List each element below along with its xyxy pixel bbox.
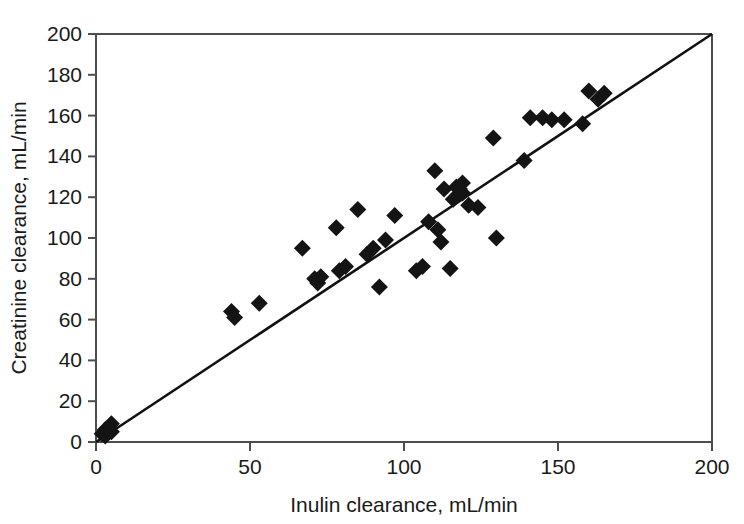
scatter-point — [485, 130, 502, 147]
x-axis-tick-labels: 050100150200 — [90, 455, 729, 478]
x-tick-label: 50 — [238, 455, 261, 478]
x-tick-label: 200 — [694, 455, 729, 478]
scatter-point — [426, 162, 443, 179]
x-tick-label: 100 — [386, 455, 421, 478]
scatter-point — [251, 295, 268, 312]
y-tick-label: 200 — [47, 22, 82, 45]
scatter-point — [488, 230, 505, 247]
y-tick-label: 140 — [47, 144, 82, 167]
y-tick-label: 60 — [59, 308, 82, 331]
y-axis-ticks — [88, 34, 96, 442]
scatter-point — [349, 201, 366, 218]
scatter-point — [294, 240, 311, 257]
x-axis-ticks — [96, 442, 712, 451]
y-axis-tick-labels: 020406080100120140160180200 — [47, 22, 82, 453]
x-tick-label: 0 — [90, 455, 102, 478]
y-tick-label: 120 — [47, 185, 82, 208]
y-tick-label: 180 — [47, 63, 82, 86]
scatter-point — [574, 115, 591, 132]
scatter-point — [556, 111, 573, 128]
scatter-point — [432, 234, 449, 251]
y-tick-label: 160 — [47, 104, 82, 127]
y-axis-title: Creatinine clearance, mL/min — [7, 101, 30, 374]
scatter-markers — [94, 83, 613, 445]
y-tick-label: 40 — [59, 348, 82, 371]
x-tick-label: 150 — [540, 455, 575, 478]
scatter-plot-figure: 020406080100120140160180200 050100150200… — [0, 0, 744, 524]
line-of-identity — [96, 34, 712, 442]
scatter-point — [371, 278, 388, 295]
y-tick-label: 20 — [59, 389, 82, 412]
chart-svg: 020406080100120140160180200 050100150200… — [0, 0, 744, 524]
scatter-point — [442, 260, 459, 277]
scatter-point — [328, 219, 345, 236]
scatter-point — [386, 207, 403, 224]
y-tick-label: 80 — [59, 267, 82, 290]
y-tick-label: 0 — [70, 430, 82, 453]
y-tick-label: 100 — [47, 226, 82, 249]
x-axis-title: Inulin clearance, mL/min — [290, 493, 518, 516]
